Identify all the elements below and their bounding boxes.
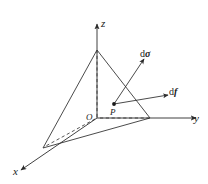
edge-apex-to-x xyxy=(43,50,97,148)
axis-lines xyxy=(21,24,196,170)
df-symbol: f xyxy=(174,86,177,97)
y-axis-label: y xyxy=(194,113,199,124)
z-axis-label: z xyxy=(101,18,105,29)
df-arrow xyxy=(114,95,168,104)
x-axis-label: x xyxy=(13,166,18,177)
figure-container: z y x O P dσ df xyxy=(0,0,208,184)
point-p-label: P xyxy=(110,108,116,117)
d-sigma-arrow xyxy=(114,59,144,104)
tetrahedron-solid-edges xyxy=(43,50,150,148)
x-axis-line xyxy=(21,118,97,170)
traction-vectors xyxy=(114,59,168,104)
point-p-marker xyxy=(112,102,116,106)
d-sigma-symbol: σ xyxy=(145,48,150,59)
edge-apex-to-y xyxy=(97,50,150,118)
d-sigma-label: dσ xyxy=(140,49,150,59)
df-label: df xyxy=(169,87,177,97)
edge-x-to-y xyxy=(43,118,150,148)
origin-label: O xyxy=(86,113,93,122)
